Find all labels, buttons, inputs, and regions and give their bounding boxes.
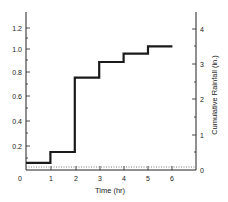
left-tick-label: 0.2	[12, 143, 22, 150]
x-tick-label: 2	[74, 175, 78, 182]
right-tick-label: 3	[200, 61, 204, 68]
right-axis-title: Cumulative Rainfall (in.)	[210, 55, 219, 135]
left-tick-label: 0.4	[12, 118, 22, 125]
x-tick-label: 6	[170, 175, 174, 182]
right-tick-label: 2	[200, 96, 204, 103]
x-tick-label: 0	[18, 175, 22, 182]
x-axis-title: Time (hr)	[95, 186, 126, 195]
x-tick-label: 5	[146, 175, 150, 182]
right-tick-label: 1	[200, 132, 204, 139]
left-tick-label: 0.8	[12, 69, 22, 76]
right-ticks	[192, 29, 196, 152]
x-tick-label: 1	[49, 175, 53, 182]
x-tick-label: 3	[98, 175, 102, 182]
left-tick-label: 0.6	[12, 93, 22, 100]
step-series-line	[26, 46, 172, 162]
x-tick-label: 4	[122, 175, 126, 182]
left-tick-label: 1.2	[12, 25, 22, 32]
right-tick-label: 4	[200, 26, 204, 33]
chart: 1.2 1.0 0.8 0.6 0.4 0.2 4 3 2 1 0 0 1 2 …	[0, 0, 228, 202]
left-tick-label: 1.0	[12, 46, 22, 53]
right-tick-label: 0	[200, 167, 204, 174]
left-ticks	[26, 28, 30, 158]
